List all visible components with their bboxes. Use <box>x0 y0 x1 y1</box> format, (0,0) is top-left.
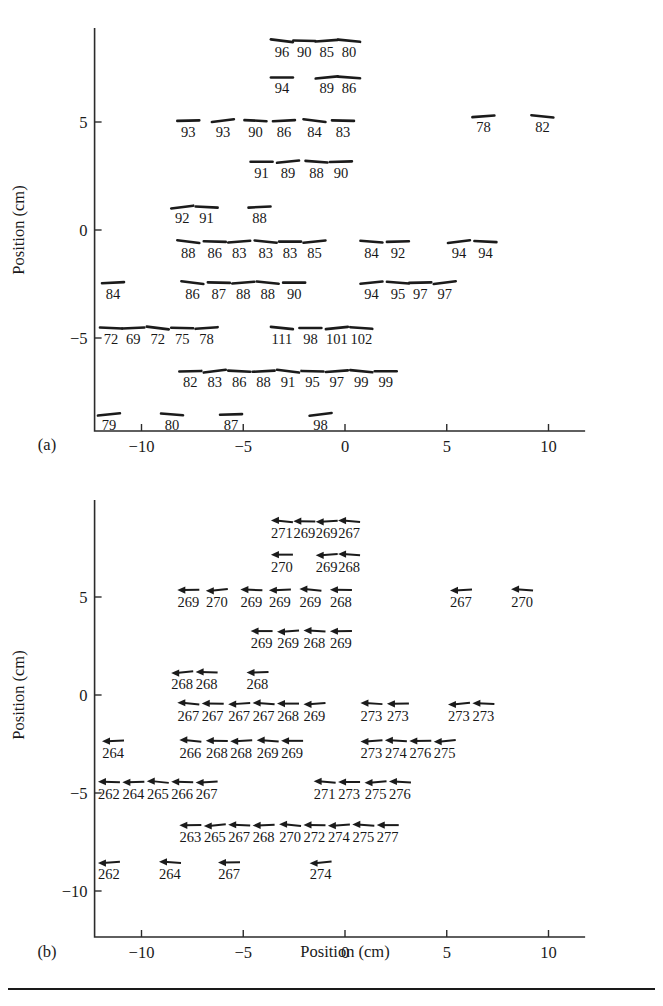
data-point: 94 <box>448 240 470 260</box>
data-point: 78 <box>472 115 494 135</box>
data-point: 273 <box>360 738 382 761</box>
data-point-value: 266 <box>179 745 201 761</box>
data-point: 269 <box>316 552 338 575</box>
data-point-value: 69 <box>126 331 141 347</box>
data-point: 86 <box>204 241 226 260</box>
data-point-value: 267 <box>196 786 218 802</box>
data-point-value: 269 <box>241 594 263 610</box>
data-point: 265 <box>204 822 226 845</box>
data-point-value: 91 <box>254 165 269 181</box>
data-point-value: 274 <box>385 745 408 761</box>
data-point: 269 <box>316 518 338 541</box>
data-point: 268 <box>206 737 228 761</box>
data-point-value: 270 <box>279 829 301 845</box>
data-point-value: 268 <box>253 829 275 845</box>
data-point: 96 <box>271 39 293 59</box>
data-point: 72 <box>100 327 122 347</box>
data-point-value: 88 <box>181 245 196 261</box>
data-point: 263 <box>179 822 201 845</box>
y-tick-label: 5 <box>79 588 87 607</box>
data-point-value: 80 <box>165 417 180 433</box>
data-point-value: 86 <box>342 80 357 96</box>
data-point-value: 94 <box>275 80 290 96</box>
data-point-value: 96 <box>275 44 290 60</box>
data-point: 267 <box>177 699 199 723</box>
data-point-value: 268 <box>304 635 326 651</box>
data-point-value: 85 <box>319 44 334 60</box>
data-point-value: 84 <box>307 124 322 140</box>
data-point: 268 <box>330 586 352 610</box>
data-point: 262 <box>98 859 120 882</box>
data-point-value: 270 <box>511 594 533 610</box>
data-point: 90 <box>283 283 305 302</box>
data-point: 99 <box>375 371 397 390</box>
data-point: 91 <box>277 370 299 390</box>
data-point: 267 <box>202 700 224 724</box>
data-point: 269 <box>293 518 315 542</box>
data-point-value: 90 <box>334 165 349 181</box>
data-point: 269 <box>257 737 279 761</box>
data-point: 267 <box>450 587 472 610</box>
data-point: 268 <box>171 670 193 693</box>
data-point-value: 267 <box>177 708 199 724</box>
data-point: 84 <box>102 282 124 302</box>
data-point: 274 <box>310 860 333 883</box>
data-point: 86 <box>273 120 295 140</box>
figure-bottom-rule <box>8 988 655 990</box>
data-point: 95 <box>387 282 409 302</box>
x-tick-label: −5 <box>234 943 252 962</box>
data-point-value: 78 <box>476 119 491 135</box>
y-tick-label: −5 <box>70 329 88 348</box>
data-point: 85 <box>316 40 338 60</box>
data-point-value: 277 <box>377 829 399 845</box>
data-point: 267 <box>338 517 360 541</box>
data-point: 268 <box>277 700 299 724</box>
data-point-value: 273 <box>338 786 360 802</box>
data-point-value: 268 <box>247 676 269 692</box>
data-point-value: 92 <box>175 210 190 226</box>
data-point: 269 <box>269 587 291 610</box>
data-point: 268 <box>338 551 360 575</box>
data-point: 90 <box>293 40 315 59</box>
data-point: 265 <box>147 778 169 802</box>
data-point: 93 <box>212 119 234 139</box>
figure-root: 9690858094898693939086848378829189889092… <box>0 0 663 1006</box>
data-point: 78 <box>196 327 218 347</box>
data-point-value: 266 <box>171 786 193 802</box>
data-point: 83 <box>279 242 301 261</box>
data-point-value: 88 <box>236 286 251 302</box>
data-point: 80 <box>338 40 360 60</box>
data-point-value: 82 <box>535 119 550 135</box>
data-point-value: 93 <box>216 124 231 140</box>
data-point-value: 275 <box>352 829 374 845</box>
y-tick-label: 0 <box>79 686 87 705</box>
data-point-value: 274 <box>310 866 333 882</box>
data-point: 94 <box>474 241 496 261</box>
data-point: 270 <box>279 821 301 845</box>
data-point: 90 <box>330 161 352 180</box>
data-point-value: 90 <box>248 124 263 140</box>
data-point-value: 72 <box>104 331 119 347</box>
data-point-value: 78 <box>199 331 214 347</box>
data-point-value: 97 <box>330 374 345 390</box>
data-point: 83 <box>228 241 250 261</box>
y-tick-label: −10 <box>62 882 88 901</box>
data-point: 276 <box>409 737 431 760</box>
data-point: 270 <box>511 586 533 610</box>
data-point-value: 269 <box>330 635 352 651</box>
data-point: 276 <box>389 778 411 802</box>
data-point-value: 90 <box>287 286 302 302</box>
data-point-value: 275 <box>365 786 387 802</box>
data-point-value: 79 <box>102 417 117 433</box>
data-point: 269 <box>277 628 299 651</box>
data-point-value: 269 <box>281 745 303 761</box>
y-tick-label: 0 <box>79 221 87 240</box>
data-point: 267 <box>218 859 240 882</box>
data-point: 82 <box>179 371 201 390</box>
data-point: 270 <box>271 551 293 575</box>
data-point: 273 <box>360 699 382 723</box>
data-point: 111 <box>271 327 293 347</box>
data-point-value: 276 <box>409 745 431 761</box>
x-tick-label: −10 <box>129 437 155 456</box>
data-point-value: 273 <box>361 745 383 761</box>
